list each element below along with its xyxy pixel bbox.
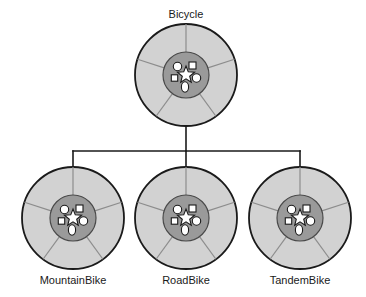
wheel-tandembike bbox=[249, 167, 351, 269]
square-left-icon bbox=[171, 218, 177, 224]
node-label-roadbike: RoadBike bbox=[162, 274, 210, 286]
wheel-bicycle bbox=[135, 24, 237, 126]
wheel-mountainbike bbox=[22, 167, 124, 269]
circle-right-icon bbox=[79, 217, 87, 225]
square-left-icon bbox=[171, 75, 177, 81]
circle-upper-left-icon bbox=[173, 62, 181, 70]
square-left-icon bbox=[58, 218, 64, 224]
circle-upper-left-icon bbox=[173, 205, 181, 213]
inheritance-connector bbox=[73, 126, 300, 170]
square-upper-right-icon bbox=[189, 62, 196, 69]
node-label-bicycle: Bicycle bbox=[169, 8, 204, 20]
square-left-icon bbox=[285, 218, 291, 224]
ellipse-bottom-icon bbox=[295, 225, 302, 235]
square-upper-right-icon bbox=[303, 205, 310, 212]
ellipse-bottom-icon bbox=[68, 225, 75, 235]
square-upper-right-icon bbox=[189, 205, 196, 212]
node-label-tandembike: TandemBike bbox=[270, 274, 331, 286]
circle-upper-left-icon bbox=[60, 205, 68, 213]
diagram-canvas: BicycleMountainBikeRoadBikeTandemBike bbox=[0, 0, 366, 297]
square-upper-right-icon bbox=[76, 205, 83, 212]
circle-right-icon bbox=[306, 217, 314, 225]
circle-right-icon bbox=[192, 217, 200, 225]
class-diagram: BicycleMountainBikeRoadBikeTandemBike bbox=[0, 0, 366, 297]
ellipse-bottom-icon bbox=[181, 225, 188, 235]
circle-right-icon bbox=[192, 74, 200, 82]
node-label-mountainbike: MountainBike bbox=[40, 274, 107, 286]
ellipse-bottom-icon bbox=[181, 82, 188, 92]
circle-upper-left-icon bbox=[287, 205, 295, 213]
wheel-roadbike bbox=[135, 167, 237, 269]
